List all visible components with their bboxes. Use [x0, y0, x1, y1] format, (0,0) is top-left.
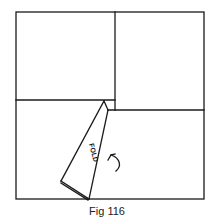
- folded-flap: [61, 101, 108, 200]
- fold-diagram: FOLD: [0, 0, 214, 224]
- figure-caption: Fig 116: [0, 205, 214, 217]
- notch-line: [104, 101, 108, 110]
- outer-square: [16, 12, 204, 199]
- fold-label: FOLD: [88, 142, 100, 162]
- curved-arrow-icon: [108, 154, 119, 171]
